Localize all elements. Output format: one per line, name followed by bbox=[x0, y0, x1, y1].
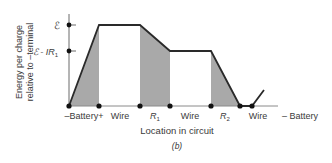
figure-caption: (b) bbox=[172, 141, 183, 151]
x-label-wire-2: Wire bbox=[181, 111, 200, 121]
x-label-wire-3: Wire bbox=[249, 111, 268, 121]
energy-diagram: ℰ ℰ - IR1 Energy per charge relative to … bbox=[0, 0, 332, 163]
y-tick-emf-label: ℰ bbox=[54, 20, 60, 31]
x-axis-title: Location in circuit bbox=[140, 125, 214, 136]
x-label-r2: R2 bbox=[220, 111, 231, 122]
y-axis-title-line1: Energy per charge bbox=[14, 25, 24, 99]
y-axis-title-line2: relative to –terminal bbox=[25, 23, 35, 102]
x-label-r1: R1 bbox=[150, 111, 161, 122]
x-label-battery-pos: –Battery+ bbox=[65, 111, 104, 121]
y-tick-emf-minus-ir-label: ℰ - IR1 bbox=[33, 47, 59, 58]
x-label-wire-1: Wire bbox=[111, 111, 130, 121]
x-label-battery-neg: – Battery bbox=[282, 111, 319, 121]
